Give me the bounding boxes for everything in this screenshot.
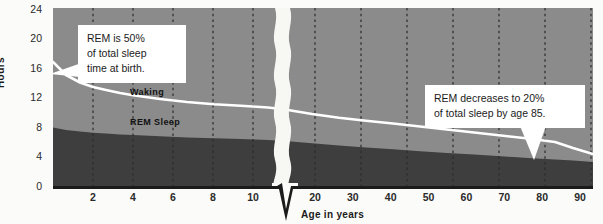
callout-left-line2: of total sleep	[87, 46, 177, 61]
x-tick-80: 80	[527, 192, 557, 203]
x-tick-90: 90	[565, 192, 595, 203]
x-tick-6: 6	[158, 192, 188, 203]
y-tick-24: 24	[0, 4, 42, 15]
x-tick-8: 8	[198, 192, 228, 203]
y-tick-0: 0	[0, 181, 42, 192]
x-tick-4: 4	[118, 192, 148, 203]
callout-right-tail	[520, 126, 554, 162]
x-tick-30: 30	[338, 192, 368, 203]
x-tick-40: 40	[376, 192, 406, 203]
x-tick-2: 2	[78, 192, 108, 203]
y-tick-4: 4	[0, 151, 42, 162]
y-tick-12: 12	[0, 92, 42, 103]
callout-right-line2: of total sleep by age 85.	[434, 106, 576, 121]
callout-left-line3: time at birth.	[87, 61, 177, 76]
axis-break-notch	[272, 183, 298, 224]
y-tick-16: 16	[0, 63, 42, 74]
x-axis-title: Age in years	[301, 209, 364, 220]
x-tick-50: 50	[414, 192, 444, 203]
x-axis-line	[53, 186, 593, 189]
x-tick-60: 60	[451, 192, 481, 203]
y-tick-8: 8	[0, 122, 42, 133]
callout-left-line1: REM is 50%	[87, 31, 177, 46]
chart-figure: Hours 24 20 16 12 8 4 0	[0, 0, 603, 224]
callout-right-line1: REM decreases to 20%	[434, 91, 576, 106]
callout-left: REM is 50% of total sleep time at birth.	[78, 25, 186, 83]
x-tick-20: 20	[300, 192, 330, 203]
y-tick-20: 20	[0, 33, 42, 44]
series-label-rem-sleep: REM Sleep	[130, 117, 180, 127]
series-label-waking: Waking	[130, 87, 164, 97]
x-tick-10: 10	[238, 192, 268, 203]
x-tick-70: 70	[489, 192, 519, 203]
callout-right: REM decreases to 20% of total sleep by a…	[425, 85, 585, 128]
axis-break-ribbon	[274, 8, 292, 186]
